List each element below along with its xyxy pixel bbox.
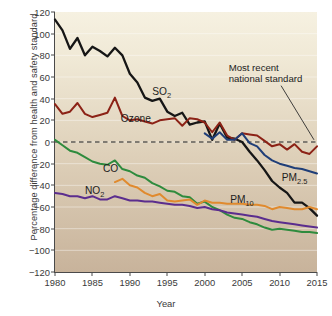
x-tick-mark xyxy=(167,272,168,276)
series-label-pm25-subscript: 2.5 xyxy=(297,177,307,186)
series-label-no2-subscript: 2 xyxy=(100,190,104,199)
y-tick-mark xyxy=(51,98,55,99)
y-tick-label: −20 xyxy=(34,158,50,169)
series-label-co-text: CO xyxy=(103,163,118,174)
series-label-no2-text: NO xyxy=(85,185,100,196)
y-tick-mark xyxy=(51,163,55,164)
series-label-ozone: Ozone xyxy=(121,113,151,124)
series-label-pm10-subscript: 10 xyxy=(245,199,253,208)
x-tick-mark xyxy=(317,272,318,276)
series-label-pm10-text: PM xyxy=(230,194,245,205)
y-tick-mark xyxy=(51,120,55,121)
x-tick-label: 2015 xyxy=(307,277,328,288)
series-label-pm25: PM2.5 xyxy=(282,172,308,186)
annotation-line-1: Most recent xyxy=(229,62,303,73)
plot-area: 120100806040200−20−40−60−80−100−12019801… xyxy=(55,12,317,272)
y-tick-mark xyxy=(51,33,55,34)
series-label-pm25-text: PM xyxy=(282,172,297,183)
series-label-co: CO xyxy=(103,163,118,174)
y-tick-label: 120 xyxy=(34,7,50,18)
y-tick-label: −60 xyxy=(34,202,50,213)
y-tick-label: 80 xyxy=(40,50,50,61)
y-tick-label: −40 xyxy=(34,180,50,191)
series-label-so2-text: SO xyxy=(152,86,167,97)
y-tick-label: 20 xyxy=(40,115,50,126)
x-tick-mark xyxy=(279,272,280,276)
x-tick-label: 2005 xyxy=(232,277,253,288)
x-tick-mark xyxy=(55,272,56,276)
series-label-so2-subscript: 2 xyxy=(167,91,171,100)
series-label-ozone-text: Ozone xyxy=(121,113,151,124)
x-tick-mark xyxy=(242,272,243,276)
y-tick-mark xyxy=(51,228,55,229)
chart-figure: Percentage difference from health and sa… xyxy=(0,0,332,316)
x-tick-label: 1980 xyxy=(45,277,66,288)
x-tick-label: 1990 xyxy=(119,277,140,288)
series-label-no2: NO2 xyxy=(85,185,104,199)
y-tick-mark xyxy=(51,207,55,208)
y-tick-label: 100 xyxy=(34,28,50,39)
x-tick-label: 1985 xyxy=(82,277,103,288)
x-tick-label: 2000 xyxy=(194,277,215,288)
y-tick-mark xyxy=(51,77,55,78)
annotation-line-2: national standard xyxy=(229,73,303,84)
x-tick-mark xyxy=(204,272,205,276)
y-tick-mark xyxy=(51,142,55,143)
series-label-so2: SO2 xyxy=(152,86,171,100)
y-tick-mark xyxy=(51,12,55,13)
x-tick-label: 2010 xyxy=(269,277,290,288)
y-tick-label: 40 xyxy=(40,93,50,104)
y-tick-mark xyxy=(51,55,55,56)
x-tick-mark xyxy=(129,272,130,276)
x-tick-label: 1995 xyxy=(157,277,178,288)
y-tick-mark xyxy=(51,185,55,186)
x-tick-mark xyxy=(92,272,93,276)
annotation-most-recent-national-standard: Most recentnational standard xyxy=(229,62,303,85)
y-tick-label: −120 xyxy=(29,267,50,278)
y-tick-label: −80 xyxy=(34,223,50,234)
y-tick-label: 60 xyxy=(40,72,50,83)
y-tick-label: 0 xyxy=(45,137,50,148)
plot-svg xyxy=(55,12,317,272)
x-axis-title: Year xyxy=(0,298,332,309)
y-tick-label: −100 xyxy=(29,245,50,256)
y-tick-mark xyxy=(51,250,55,251)
series-label-pm10: PM10 xyxy=(230,194,254,208)
